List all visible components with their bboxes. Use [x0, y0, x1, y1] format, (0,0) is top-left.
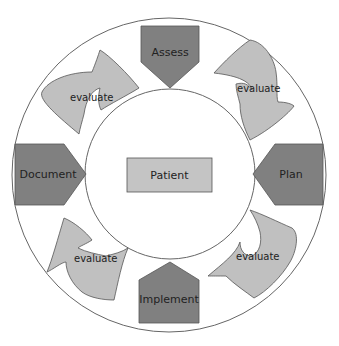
step-label-document: Document: [20, 168, 78, 181]
evaluate-label: evaluate: [74, 253, 118, 264]
center-patient: Patient: [127, 158, 212, 192]
center-label: Patient: [150, 169, 189, 182]
step-label-assess: Assess: [151, 46, 188, 59]
step-label-plan: Plan: [279, 168, 302, 181]
step-label-implement: Implement: [139, 293, 199, 306]
nursing-process-diagram: evaluate evaluate evaluate evaluate Asse…: [0, 0, 339, 346]
evaluate-label: evaluate: [70, 92, 114, 103]
evaluate-label: evaluate: [237, 83, 281, 94]
evaluate-label: evaluate: [236, 251, 280, 262]
